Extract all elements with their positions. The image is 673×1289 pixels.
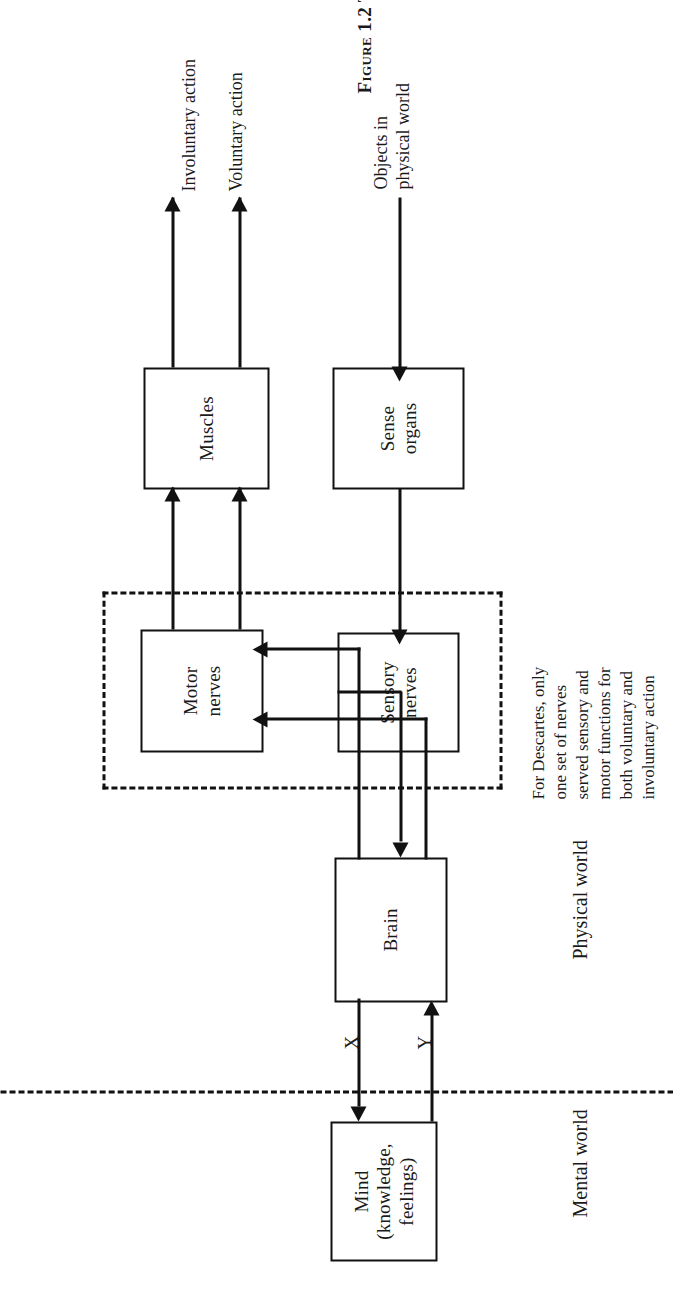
objects-label-line2: physical world [392,83,414,189]
pathway-x-line [357,998,360,1106]
pathway-y-label: Y [413,1035,435,1049]
sensory-to-brain-arrowhead [392,842,408,857]
sensory-to-brain-horizontal [399,691,402,841]
node-motor-nerves: Motor nerves [140,629,263,752]
node-mind: Mind (knowledge, feelings) [330,1121,437,1261]
figure-caption: Figure 1.2 The dualistic system of Desca… [352,0,377,93]
node-muscles-label: Muscles [195,392,217,465]
node-muscles: Muscles [143,367,269,489]
muscles-to-voluntary-arrowhead [231,196,247,211]
objects-label-line1: Objects in [370,83,392,189]
brain-to-motor-involuntary-arrowhead [252,641,267,657]
muscles-to-involuntary-line [171,197,174,367]
brain-to-motor-involuntary-vertical [265,647,360,650]
node-sense-line1: Sense [376,398,398,458]
brain-to-motor-voluntary-horizontal [424,717,427,859]
motor-to-muscles-arrowhead-involuntary [164,486,180,501]
objects-to-sense-arrowhead [391,366,407,381]
muscles-to-involuntary-arrowhead [164,196,180,211]
descartes-note-line3: served sensory and [571,529,593,799]
descartes-note: For Descartes, only one set of nerves se… [527,529,660,799]
physical-world-label: Physical world [568,840,591,959]
muscles-to-voluntary-line [238,197,241,367]
descartes-note-line1: For Descartes, only [527,529,549,799]
brain-to-motor-voluntary-vertical [265,717,427,720]
rotated-figure-canvas: Mental world Physical world Mind (knowle… [0,0,673,1289]
pathway-y-arrowhead [423,1000,439,1015]
descartes-note-line2: one set of nerves [549,529,571,799]
motor-to-muscles-line-voluntary [238,487,241,629]
node-brain: Brain [334,857,447,1002]
node-motor-line2: nerves [202,661,224,720]
brain-to-motor-involuntary-horizontal [357,647,360,859]
node-brain-label: Brain [379,904,401,955]
objects-to-sense-line [398,197,401,367]
figure-page: Mental world Physical world Mind (knowle… [0,0,673,1289]
pathway-y-line [430,1011,433,1121]
involuntary-action-label: Involuntary action [178,59,200,191]
sense-to-sensory-arrowhead [391,629,407,644]
mental-world-label: Mental world [568,1109,591,1217]
pathway-x-arrowhead [350,1106,366,1121]
node-mind-line3: feelings) [395,1139,417,1244]
figure-caption-number: Figure 1.2 [353,6,374,93]
voluntary-action-label: Voluntary action [225,72,247,191]
brain-to-motor-voluntary-arrowhead [252,711,267,727]
descartes-note-line6: involuntary action [637,529,659,799]
descartes-note-line4: motor functions for [593,529,615,799]
motor-to-muscles-line-involuntary [171,487,174,629]
descartes-note-line5: both voluntary and [615,529,637,799]
node-motor-line1: Motor [179,661,201,720]
motor-to-muscles-arrowhead-voluntary [231,486,247,501]
node-mind-line2: (knowledge, [372,1139,394,1244]
objects-in-physical-world-label: Objects in physical world [370,83,414,189]
node-mind-line1: Mind [350,1139,372,1244]
node-sense-organs: Sense organs [332,367,464,489]
mental-physical-divider [0,1090,673,1093]
sensory-to-brain-vertical [337,690,401,693]
figure-caption-text: The dualistic system of Descartes. Objec… [353,0,374,2]
node-sense-line2: organs [398,398,420,458]
pathway-x-label: X [340,1035,362,1049]
sense-to-sensory-line [398,488,401,630]
